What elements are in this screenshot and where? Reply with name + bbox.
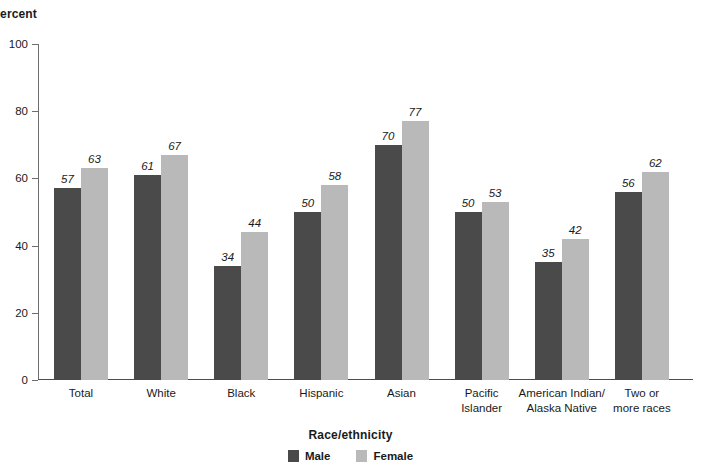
y-axis-tick-label: 80 [15,105,28,117]
bar: 42 [562,239,589,380]
legend-swatch [288,450,299,462]
bar-value-label: 70 [382,130,395,142]
bar-value-label: 42 [569,224,582,236]
y-axis-tick-label: 20 [15,307,28,319]
bar: 67 [161,155,188,380]
bar: 34 [214,266,241,380]
bar: 58 [321,185,348,380]
x-axis-category-labels: TotalWhiteBlackHispanicAsianPacificIslan… [38,386,693,432]
x-axis-category-label: Two ormore races [613,386,671,416]
bar: 53 [482,202,509,380]
bar-group: 5662 [615,44,669,380]
bar-value-label: 50 [462,197,475,209]
legend-swatch [356,450,367,462]
bar-value-label: 35 [542,247,555,259]
bar: 70 [375,145,402,380]
bar-value-label: 44 [248,217,261,229]
bar-value-label: 34 [221,251,234,263]
bar-value-label: 62 [649,157,662,169]
y-axis-tick-label: 0 [22,374,28,386]
y-axis-tick-label: 100 [9,38,28,50]
legend-label: Female [373,450,413,462]
bar: 56 [615,192,642,380]
x-axis-category-label: PacificIslander [461,386,502,416]
bar: 63 [81,168,108,380]
bar: 62 [642,172,669,380]
bar-value-label: 53 [489,187,502,199]
bars-layer: 57636167344450587077505335425662 [38,44,693,380]
x-axis-category-label: Total [69,386,93,401]
legend-item: Female [356,450,413,462]
bar-value-label: 56 [622,177,635,189]
x-axis-title: Race/ethnicity [0,428,701,442]
x-axis-category-label: White [146,386,175,401]
x-axis-category-label: Hispanic [299,386,343,401]
plot-area: 020406080100 576361673444505870775053354… [38,44,693,380]
bar-group: 3542 [535,44,589,380]
x-axis-category-label: Asian [387,386,416,401]
bar-value-label: 63 [88,153,101,165]
legend-item: Male [288,450,331,462]
bar: 50 [455,212,482,380]
bar-group: 3444 [214,44,268,380]
legend-label: Male [305,450,331,462]
bar-group: 7077 [375,44,429,380]
bar-value-label: 57 [61,173,74,185]
bar-value-label: 67 [168,140,181,152]
bar-chart: Percent 020406080100 5763616734445058707… [0,0,701,471]
bar: 50 [294,212,321,380]
y-axis-tick-label: 40 [15,240,28,252]
y-axis-tick-label: 60 [15,172,28,184]
bar-value-label: 77 [409,106,422,118]
bar: 44 [241,232,268,380]
y-axis-title: Percent [0,7,37,21]
bar-value-label: 61 [141,160,154,172]
bar: 35 [535,262,562,380]
bar: 57 [54,188,81,380]
bar-value-label: 58 [328,170,341,182]
bar: 61 [134,175,161,380]
bar: 77 [402,121,429,380]
bar-group: 6167 [134,44,188,380]
legend: MaleFemale [0,450,701,462]
bar-group: 5053 [455,44,509,380]
bar-group: 5763 [54,44,108,380]
x-axis-category-label: Black [227,386,255,401]
x-axis-category-label: American Indian/Alaska Native [519,386,605,416]
y-axis-tick-mark [32,380,38,381]
bar-group: 5058 [294,44,348,380]
bar-value-label: 50 [301,197,314,209]
